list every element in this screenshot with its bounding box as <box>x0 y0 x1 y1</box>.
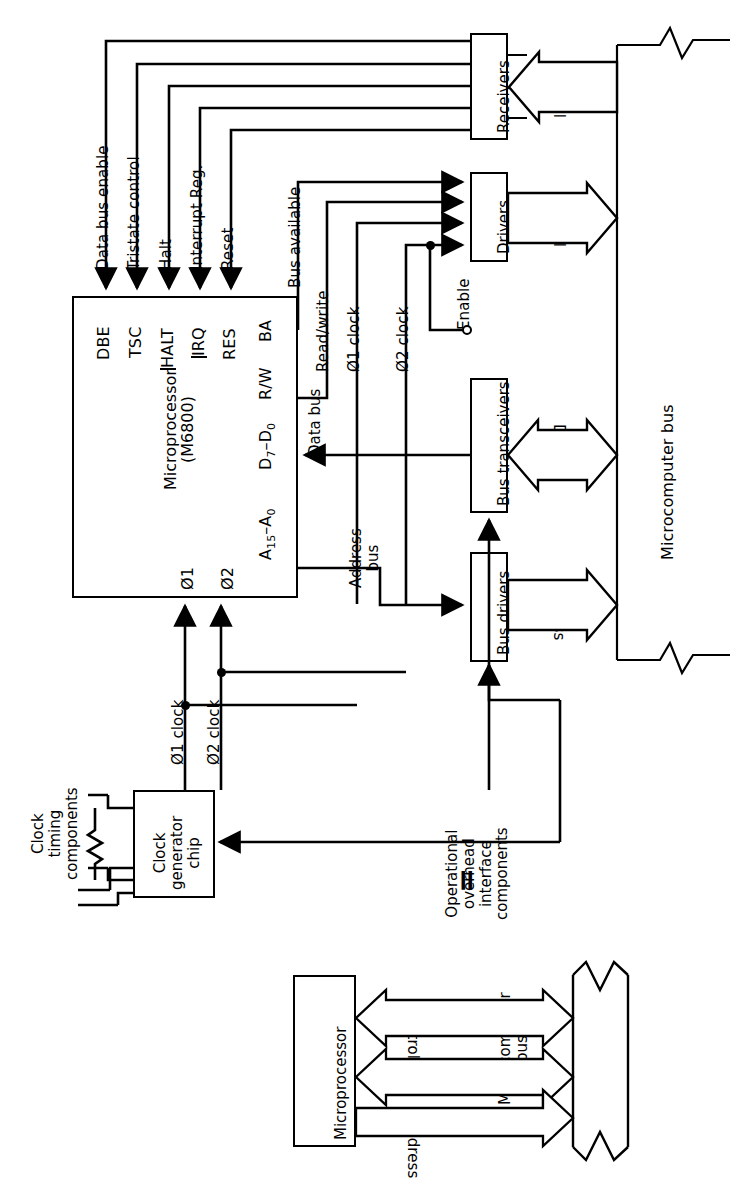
bus-arrow-label-control-out: Control <box>551 192 566 247</box>
address-bus-line2: bus <box>365 528 382 588</box>
label-phi1-clock: Ø1 clock <box>347 307 362 372</box>
wire-halt <box>169 86 470 288</box>
resistor-symbol <box>88 808 102 880</box>
pin-halt: HALT <box>160 328 176 370</box>
enable-inverting-bubble <box>462 325 472 335</box>
pin-a15-a0: A15–A0 <box>258 508 277 560</box>
label-halt: Halt <box>159 239 174 270</box>
bottom-microprocessor-label: Microprocessor <box>333 1027 349 1140</box>
pin-rw: R/W <box>258 367 274 400</box>
label-data-bus-text: Data bus <box>307 389 324 456</box>
wire-reset <box>231 130 470 288</box>
crystal-lead-b <box>78 893 133 905</box>
pin-ba: BA <box>258 320 274 342</box>
drivers-label: Drivers <box>496 200 512 254</box>
label-microcomputer-bus-top: Microcomputer bus <box>660 404 676 560</box>
bus-transceivers-label: Bus transceivers <box>496 381 512 506</box>
bottom-bus-arrow-control <box>356 990 573 1046</box>
label-enable: Enable <box>457 278 472 330</box>
label-read-write: Read/write <box>316 291 331 372</box>
address-bus-line1: Address <box>348 528 365 588</box>
label-data-bus: Data bus <box>307 389 324 456</box>
bottom-bus-arrow-data <box>356 1049 573 1105</box>
label-phi2-clock: Ø2 clock <box>396 307 411 372</box>
junction-dot-phi2-drivers <box>426 241 435 250</box>
bottom-arrow-label-address: Address <box>405 1118 420 1178</box>
microprocessor-name: Microprocessor <box>162 369 179 490</box>
pin-d7-d0: D7–D0 <box>258 423 277 470</box>
bottom-microcomputer-bus-label: Microcomputer bus <box>497 992 531 1105</box>
label-phi2-clock-gen: Ø2 clock <box>207 700 222 765</box>
bottom-bus-arrow-address <box>356 1090 573 1146</box>
bus-arrow-label-address: Address <box>551 580 566 640</box>
bottombus-line-2: bus <box>514 992 531 1105</box>
bus-arrow-label-control-in: Control <box>551 63 566 118</box>
label-tristate-control: Tristate control <box>127 156 142 270</box>
pin-dbe: DBE <box>96 326 112 360</box>
wire-phi2-to-drivers <box>406 245 462 604</box>
microprocessor-part: (M6800) <box>179 369 196 490</box>
overhead-line-4: components <box>494 827 511 920</box>
microcomputer-bus-break-bottom <box>617 643 730 673</box>
bottom-bus-break-top <box>573 962 628 990</box>
clockgen-line-3: chip <box>186 816 203 890</box>
pin-phi2: Ø2 <box>220 567 236 590</box>
clock-generator-label: Clock generator chip <box>152 816 202 890</box>
clocktiming-line-2: timing <box>47 787 64 880</box>
bus-drivers-label: Bus drivers <box>496 571 512 655</box>
pin-phi1: Ø1 <box>180 567 196 590</box>
microprocessor-box-label: Microprocessor (M6800) <box>162 369 197 490</box>
pin-tsc: TSC <box>128 327 144 358</box>
equivalence-sign: = <box>448 868 483 893</box>
label-address-bus: Address bus <box>348 528 382 588</box>
bottombus-line-1: Microcomputer <box>497 992 514 1105</box>
timing-net-bottom <box>88 868 133 880</box>
crystal-lead-a <box>78 868 133 890</box>
figure-canvas: Microprocessor (M6800) DBE TSC HALT IRQ … <box>0 0 736 1203</box>
junction-dot-phi1-branch <box>181 701 190 710</box>
junction-dot-phi2-branch <box>217 668 226 677</box>
clocktiming-line-3: components <box>64 787 81 880</box>
label-reset: Reset <box>221 228 236 270</box>
bottom-bus-break-bottom <box>573 1132 628 1160</box>
clockgen-line-2: generator <box>169 816 186 890</box>
bottom-arrow-label-control: Control <box>405 1004 420 1059</box>
label-clock-timing-components: Clock timing components <box>30 787 80 880</box>
receivers-label: Receivers <box>496 60 512 133</box>
pin-res: RES <box>222 328 238 360</box>
clockgen-line-1: Clock <box>152 816 169 890</box>
bus-arrow-label-data: Data <box>551 424 566 460</box>
label-bus-available: Bus available <box>288 187 303 288</box>
label-data-bus-enable: Data bus enable <box>96 145 111 270</box>
microcomputer-bus-break-top <box>617 28 730 58</box>
wire-interrupt-req <box>200 108 470 288</box>
bottom-arrow-label-data: Data <box>405 1059 420 1095</box>
clocktiming-line-1: Clock <box>30 787 47 880</box>
timing-net-top <box>88 795 133 808</box>
label-interrupt-reg: Interrupt Reg. <box>190 165 205 270</box>
pin-irq: IRQ <box>191 327 207 358</box>
